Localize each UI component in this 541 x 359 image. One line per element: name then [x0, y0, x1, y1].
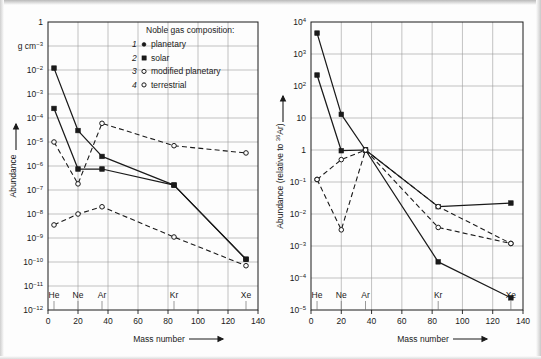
element-label-ne: Ne	[73, 290, 84, 300]
x-tick-label: 60	[397, 316, 407, 326]
y-tick-label: 10−12	[23, 305, 43, 315]
data-point-solar	[172, 183, 177, 188]
x-tick-label: 60	[133, 316, 143, 326]
legend-title: Noble gas composition:	[146, 25, 234, 35]
x-tick-label: 80	[427, 316, 437, 326]
y-tick-label: 10−5	[290, 305, 307, 315]
data-point-modified-planetary	[100, 121, 105, 126]
y-tick-label: 10−5	[27, 137, 44, 147]
series-line-terrestrial	[317, 150, 511, 243]
data-point-terrestrial	[509, 241, 514, 246]
x-axis-title: Mass number	[133, 334, 185, 344]
legend-item-number-2: 2	[131, 53, 137, 63]
data-point-planetary	[315, 73, 320, 78]
x-tick-label: 100	[191, 316, 205, 326]
data-point-terrestrial	[100, 204, 105, 209]
y-axis-arrow-head	[281, 96, 286, 101]
legend-marker-filled-square	[142, 56, 146, 60]
data-point-solar	[509, 201, 514, 206]
x-tick-label: 0	[309, 316, 314, 326]
legend-item-label-modified-planetary: modified planetary	[151, 66, 221, 76]
data-point-modified-planetary	[436, 204, 441, 209]
x-tick-label: 140	[251, 316, 265, 326]
data-point-terrestrial	[76, 212, 81, 217]
chart-panel-left: 110−210−310−410−510−610−710−810−910−1010…	[0, 0, 271, 359]
x-tick-label: 120	[486, 316, 500, 326]
x-tick-label: 20	[73, 316, 83, 326]
y-tick-label: 10−6	[27, 161, 44, 171]
element-label-kr: Kr	[434, 290, 443, 300]
y-axis-title: Abundance	[8, 154, 18, 197]
y-axis-arrow-head	[14, 124, 19, 129]
series-line-modified-planetary	[54, 123, 246, 184]
chart-svg-right: 10410310210110−110−210−310−410−502040608…	[271, 0, 541, 359]
y-tick-label: 104	[293, 17, 306, 27]
data-point-planetary	[52, 106, 57, 111]
y-tick-label: 10−10	[23, 257, 43, 267]
x-tick-label: 140	[516, 316, 530, 326]
legend-item-number-1: 1	[132, 39, 137, 49]
data-point-planetary	[76, 167, 81, 172]
y-tick-label: 10−2	[290, 209, 307, 219]
legend-item-number-4: 4	[132, 80, 137, 90]
x-tick-label: 0	[46, 316, 51, 326]
legend-marker-open-circle	[142, 83, 146, 87]
y-tick-label: 10−9	[27, 233, 44, 243]
data-point-terrestrial	[172, 235, 177, 240]
y-tick-label: 10	[297, 113, 307, 123]
data-point-solar	[76, 128, 81, 133]
chart-svg-left: 110−210−310−410−510−610−710−810−910−1010…	[0, 0, 271, 359]
y-tick-label: 10−1	[290, 177, 307, 187]
series-line-terrestrial	[54, 207, 246, 266]
y-tick-label: 10−4	[290, 273, 307, 283]
data-point-modified-planetary	[339, 157, 344, 162]
data-point-solar	[52, 66, 57, 71]
y-tick-label: 10−11	[24, 281, 44, 291]
y-axis-title: Abundance (relative to 36Ar)	[275, 123, 285, 229]
y-tick-label: 1	[301, 145, 306, 155]
y-tick-label: 10−4	[27, 113, 44, 123]
element-label-ne: Ne	[336, 290, 347, 300]
x-tick-label: 100	[455, 316, 469, 326]
y-tick-label: 102	[293, 81, 306, 91]
x-tick-label: 40	[367, 316, 377, 326]
y-tick-label: 10−3	[290, 241, 307, 251]
data-point-terrestrial	[436, 225, 441, 230]
element-label-kr: Kr	[170, 290, 179, 300]
legend-item-label-solar: solar	[151, 53, 170, 63]
element-label-he: He	[49, 290, 60, 300]
y-tick-label: 10−2	[27, 65, 44, 75]
figure-page: 110−210−310−410−510−610−710−810−910−1010…	[0, 0, 541, 359]
data-point-planetary	[339, 148, 344, 153]
data-point-modified-planetary	[244, 151, 249, 156]
series-line-solar	[317, 33, 511, 207]
y-tick-label: 10−8	[27, 209, 44, 219]
data-point-solar	[315, 31, 320, 36]
data-point-solar	[339, 112, 344, 117]
series-line-modified-planetary	[317, 150, 511, 243]
chart-panel-right: 10410310210110−110−210−310−410−502040608…	[271, 0, 541, 359]
element-label-ar: Ar	[98, 290, 107, 300]
legend-marker-filled-circle	[142, 43, 146, 47]
x-tick-label: 40	[103, 316, 113, 326]
series-line-planetary	[317, 75, 511, 298]
data-point-modified-planetary	[52, 140, 57, 145]
plot-frame	[311, 22, 523, 310]
series-line-solar	[54, 68, 246, 259]
x-axis-arrow-head	[482, 337, 487, 342]
y-unit-label: g cm−3	[18, 41, 44, 51]
data-point-solar	[244, 257, 249, 262]
data-point-terrestrial	[339, 228, 344, 233]
data-point-terrestrial	[363, 148, 368, 153]
x-axis-title: Mass number	[397, 334, 449, 344]
x-tick-label: 80	[163, 316, 173, 326]
y-tick-label: 10−3	[27, 89, 44, 99]
element-label-he: He	[312, 290, 323, 300]
data-point-terrestrial	[244, 263, 249, 268]
y-tick-label: 10−7	[27, 185, 44, 195]
x-tick-label: 20	[337, 316, 347, 326]
series-line-planetary	[54, 108, 246, 259]
y-tick-label: 1	[38, 17, 43, 27]
x-tick-label: 120	[221, 316, 235, 326]
y-tick-label: 103	[293, 49, 306, 59]
